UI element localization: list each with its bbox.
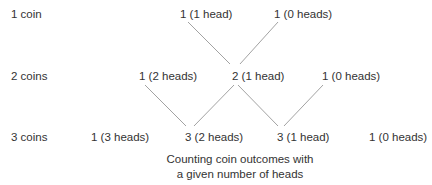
caption-line-2: a given number of heads <box>140 167 340 182</box>
row-label-1-coin: 1 coin <box>11 7 42 21</box>
node-1coin-1head: 1 (1 head) <box>180 7 232 21</box>
node-3coins-0heads: 1 (0 heads) <box>369 130 427 144</box>
caption-line-1: Counting coin outcomes with <box>140 152 340 167</box>
node-2coins-1head: 2 (1 head) <box>232 69 284 83</box>
edge-r1n2-r2n2 <box>240 22 278 64</box>
edge-r1n1-r2n2 <box>188 22 230 64</box>
node-2coins-0heads: 1 (0 heads) <box>322 69 380 83</box>
row-label-2-coins: 2 coins <box>11 69 47 83</box>
edge-r2n3-r3n3 <box>284 85 323 126</box>
edge-r2n1-r3n2 <box>145 85 186 126</box>
node-3coins-1head: 3 (1 head) <box>277 130 329 144</box>
edge-r2n2-r3n2 <box>194 85 234 126</box>
caption: Counting coin outcomes with a given numb… <box>140 152 340 182</box>
node-3coins-3heads: 1 (3 heads) <box>91 130 149 144</box>
edge-r2n2-r3n3 <box>238 85 278 126</box>
row-label-3-coins: 3 coins <box>11 130 47 144</box>
node-1coin-0heads: 1 (0 heads) <box>274 7 332 21</box>
node-2coins-2heads: 1 (2 heads) <box>139 69 197 83</box>
node-3coins-2heads: 3 (2 heads) <box>185 130 243 144</box>
